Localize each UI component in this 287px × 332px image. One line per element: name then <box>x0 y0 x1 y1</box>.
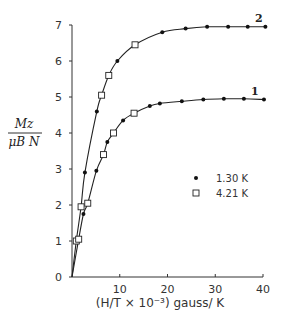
data-point-open-square <box>78 204 84 210</box>
data-point-filled-circle <box>201 98 205 102</box>
data-point-filled-circle <box>263 25 267 29</box>
data-point-filled-circle <box>115 59 119 63</box>
x-tick-label: 10 <box>113 283 127 296</box>
y-tick-label: 1 <box>55 235 62 248</box>
legend-marker-open-square <box>193 190 199 196</box>
data-point-filled-circle <box>158 101 162 105</box>
data-point-filled-circle <box>180 99 184 103</box>
data-point-filled-circle <box>222 97 226 101</box>
legend-marker-filled-circle <box>194 176 198 180</box>
data-point-open-square <box>132 42 138 48</box>
data-point-filled-circle <box>83 171 87 175</box>
x-tick-label: 20 <box>161 283 175 296</box>
data-point-filled-circle <box>81 212 85 216</box>
data-point-filled-circle <box>94 169 98 173</box>
data-point-filled-circle <box>105 140 109 144</box>
y-tick-label: 5 <box>55 91 62 104</box>
data-point-open-square <box>99 92 105 98</box>
data-point-filled-circle <box>205 25 209 29</box>
x-tick-label: 40 <box>256 283 270 296</box>
data-point-filled-circle <box>184 27 188 31</box>
legend-label-1: 1.30 K <box>216 173 248 184</box>
y-axis-label-numerator: Mz <box>14 117 34 131</box>
data-point-open-square <box>85 200 91 206</box>
data-point-open-square <box>106 72 112 78</box>
y-tick-label: 0 <box>55 271 62 284</box>
curve-label-1: 1 <box>251 85 259 98</box>
magnetization-chart: 0123456710203040 Mz μB N (H/T × 10⁻³) ga… <box>0 0 287 332</box>
labels: Mz μB N (H/T × 10⁻³) gauss/ K 1.30 K 4.2… <box>8 12 263 310</box>
data-point-filled-circle <box>121 118 125 122</box>
y-tick-label: 7 <box>55 19 62 32</box>
data-point-filled-circle <box>262 98 266 102</box>
legend-label-2: 4.21 K <box>216 188 248 199</box>
data-point-filled-circle <box>242 97 246 101</box>
y-tick-label: 6 <box>55 55 62 68</box>
data-point-open-square <box>111 130 117 136</box>
data-points <box>73 25 267 244</box>
data-point-open-square <box>131 110 137 116</box>
x-axis-label: (H/T × 10⁻³) gauss/ K <box>96 296 226 310</box>
data-point-filled-circle <box>95 109 99 113</box>
y-tick-label: 3 <box>55 163 62 176</box>
data-point-filled-circle <box>226 25 230 29</box>
y-tick-label: 4 <box>55 127 62 140</box>
y-tick-label: 2 <box>55 199 62 212</box>
curve-label-2: 2 <box>255 12 263 25</box>
data-point-filled-circle <box>160 30 164 34</box>
y-axis-label-denominator: μB N <box>9 135 40 149</box>
data-point-filled-circle <box>148 104 152 108</box>
data-point-open-square <box>76 236 82 242</box>
data-point-open-square <box>101 152 107 158</box>
x-tick-label: 30 <box>208 283 222 296</box>
data-point-filled-circle <box>246 25 250 29</box>
